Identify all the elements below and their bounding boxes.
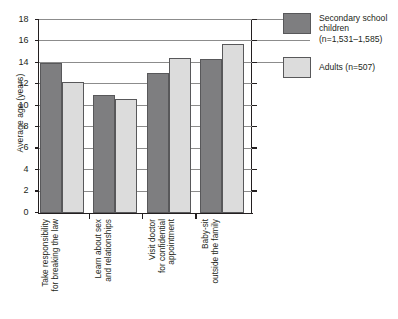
bar-group-2 bbox=[147, 20, 191, 213]
x-axis-label-2-line-0: Visit doctor bbox=[148, 219, 158, 315]
bar-series-0-category-3 bbox=[200, 59, 222, 213]
y-tick-label-10: 10 bbox=[18, 100, 28, 110]
legend-item-1-line-0: Adults (n=507) bbox=[319, 62, 375, 72]
legend-item-adults: Adults (n=507) bbox=[283, 57, 398, 78]
x-axis-label-1-line-1: and relationships bbox=[104, 219, 114, 315]
bar-group-3 bbox=[200, 20, 244, 213]
legend-item-0-line-0: Secondary school bbox=[319, 13, 387, 23]
x-axis-label-1: Learn about sexand relationships bbox=[94, 219, 113, 315]
bar-group-0 bbox=[40, 20, 84, 213]
y-tick-6: 6 bbox=[35, 147, 40, 148]
x-axis-label-3-line-0: Baby-sit bbox=[201, 219, 211, 315]
clipped-header-strip bbox=[0, 0, 398, 6]
legend-item-0-line-2: (n=1,531–1,585) bbox=[319, 34, 387, 44]
bar-series-0-category-2 bbox=[147, 73, 169, 213]
x-axis-line bbox=[38, 213, 253, 214]
series-1-swatch bbox=[283, 57, 311, 78]
x-tick-3 bbox=[195, 213, 196, 219]
legend-item-1-label: Adults (n=507) bbox=[319, 57, 375, 72]
y-tick-10: 10 bbox=[35, 105, 40, 106]
bar-series-1-category-1 bbox=[115, 99, 137, 213]
y-tick-right-12 bbox=[252, 83, 257, 84]
y-tick-label-6: 6 bbox=[23, 142, 28, 152]
plot-right-border bbox=[251, 20, 252, 213]
x-axis-label-3-line-1: outside the family bbox=[210, 219, 220, 315]
y-tick-16: 16 bbox=[35, 40, 40, 41]
bar-series-1-category-3 bbox=[222, 44, 244, 213]
y-tick-right-18 bbox=[252, 19, 257, 20]
y-tick-right-8 bbox=[252, 126, 257, 127]
y-tick-0: 0 bbox=[35, 212, 40, 213]
x-tick-2 bbox=[142, 213, 143, 219]
bar-series-0-category-1 bbox=[93, 95, 115, 213]
y-tick-8: 8 bbox=[35, 126, 40, 127]
y-tick-right-14 bbox=[252, 62, 257, 63]
legend-item-0-label: Secondary school children (n=1,531–1,585… bbox=[319, 13, 387, 44]
y-tick-right-10 bbox=[252, 105, 257, 106]
bar-series-1-category-2 bbox=[169, 58, 191, 213]
legend: Secondary school children (n=1,531–1,585… bbox=[283, 13, 398, 78]
bar-chart-figure: Average age (years) 024681012141618 Take… bbox=[0, 0, 398, 319]
y-tick-label-2: 2 bbox=[23, 185, 28, 195]
legend-item-0-line-1: children bbox=[319, 23, 387, 33]
plot-area: 024681012141618 bbox=[39, 20, 252, 213]
x-tick-1 bbox=[89, 213, 90, 219]
x-axis-label-0-line-1: for breaking the law bbox=[51, 219, 61, 315]
y-tick-right-2 bbox=[252, 190, 257, 191]
legend-item-secondary-school-children: Secondary school children (n=1,531–1,585… bbox=[283, 13, 398, 44]
bar-group-1 bbox=[93, 20, 137, 213]
bar-series-1-category-0 bbox=[62, 82, 84, 213]
y-tick-12: 12 bbox=[35, 83, 40, 84]
y-tick-label-16: 16 bbox=[18, 35, 28, 45]
y-tick-label-4: 4 bbox=[23, 164, 28, 174]
y-tick-14: 14 bbox=[35, 62, 40, 63]
x-axis-label-0: Take responsibilityfor breaking the law bbox=[41, 219, 60, 315]
y-tick-label-0: 0 bbox=[23, 207, 28, 217]
y-tick-right-4 bbox=[252, 169, 257, 170]
y-tick-label-18: 18 bbox=[18, 14, 28, 24]
series-0-swatch bbox=[283, 13, 311, 34]
y-tick-label-12: 12 bbox=[18, 78, 28, 88]
x-axis-label-3: Baby-sitoutside the family bbox=[201, 219, 220, 315]
y-tick-2: 2 bbox=[35, 190, 40, 191]
y-tick-label-14: 14 bbox=[18, 57, 28, 67]
bar-series-0-category-0 bbox=[40, 63, 62, 213]
x-axis-label-2-line-2: appointment bbox=[167, 219, 177, 315]
x-axis-label-2: Visit doctorfor confidentialappointment bbox=[148, 219, 177, 315]
y-tick-4: 4 bbox=[35, 169, 40, 170]
y-tick-18: 18 bbox=[35, 19, 40, 20]
y-tick-right-6 bbox=[252, 147, 257, 148]
y-tick-label-8: 8 bbox=[23, 121, 28, 131]
y-tick-right-16 bbox=[252, 40, 257, 41]
